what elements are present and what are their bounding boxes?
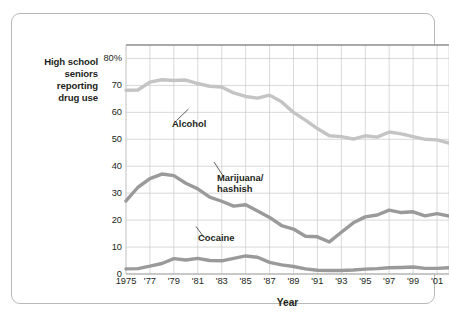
series-annotation-alcohol: Alcohol xyxy=(172,118,206,129)
x-axis-tick-label: '95 xyxy=(359,276,371,287)
x-axis-title: Year xyxy=(126,297,449,308)
series-annotation-cocaine: Cocaine xyxy=(198,232,234,243)
figure-frame: High school seniors reporting drug use 0… xyxy=(11,13,435,304)
y-axis-tick-label: 50 xyxy=(96,134,122,144)
y-axis-tick-label: 10 xyxy=(96,242,122,252)
y-axis-tick-labels: 01020304050607080% xyxy=(92,45,122,274)
y-axis-tick-label: 20 xyxy=(96,215,122,225)
x-axis-tick-label: '97 xyxy=(383,276,395,287)
x-axis-tick-label: '89 xyxy=(287,276,299,287)
y-axis-tick-label: 40 xyxy=(96,161,122,171)
y-axis-tick-label: 80% xyxy=(96,53,122,63)
x-axis-tick-label: '87 xyxy=(263,276,275,287)
y-axis-tick-label: 60 xyxy=(96,107,122,117)
x-axis-tick-label: '81 xyxy=(192,276,204,287)
x-axis-tick-labels: 1975'77'79'81'83'85'87'89'91'93'95'97'99… xyxy=(126,276,449,290)
x-axis-tick-label: '79 xyxy=(168,276,180,287)
x-axis-tick-label: '99 xyxy=(407,276,419,287)
series-annotation-marijuana: Marijuana/ hashish xyxy=(217,172,263,194)
x-axis-tick-label: '83 xyxy=(216,276,228,287)
y-axis-tick-label: 30 xyxy=(96,188,122,198)
chart-series-lines xyxy=(126,45,449,274)
plot-area xyxy=(126,45,449,274)
x-axis-tick-label: '77 xyxy=(144,276,156,287)
x-axis-tick-label: '01 xyxy=(431,276,443,287)
y-axis-caption: High school seniors reporting drug use xyxy=(26,56,98,104)
x-axis-tick-label: '93 xyxy=(335,276,347,287)
x-axis-tick-label: 1975 xyxy=(116,276,137,287)
x-axis-tick-label: '85 xyxy=(240,276,252,287)
x-axis-tick-label: '91 xyxy=(311,276,323,287)
y-axis-tick-label: 70 xyxy=(96,80,122,90)
